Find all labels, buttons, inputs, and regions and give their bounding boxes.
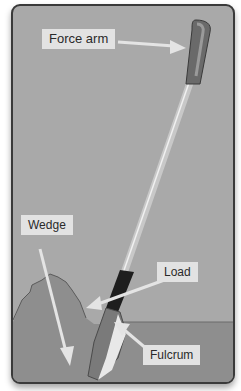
label-force-arm: Force arm	[42, 29, 115, 49]
shovel-grip	[186, 20, 210, 84]
label-load: Load	[157, 262, 198, 282]
shovel-illustration	[13, 6, 233, 382]
label-fulcrum: Fulcrum	[143, 345, 200, 365]
diagram-frame: Force arm Wedge Load Fulcrum	[11, 4, 235, 384]
label-wedge: Wedge	[21, 215, 73, 235]
